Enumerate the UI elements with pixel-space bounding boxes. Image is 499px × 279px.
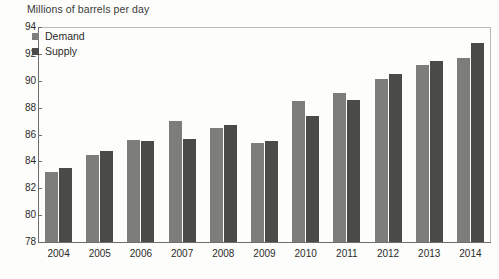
legend-swatch-supply: [32, 48, 39, 55]
bar-demand-2012: [375, 79, 388, 242]
legend-swatch-demand: [32, 33, 39, 40]
bar-supply-2005: [100, 151, 113, 242]
x-tick-label: 2009: [244, 248, 285, 260]
y-tick-label: 86: [14, 130, 36, 140]
chart-title: Millions of barrels per day: [27, 3, 149, 15]
bar-supply-2009: [265, 141, 278, 242]
bar-supply-2008: [224, 125, 237, 242]
bar-chart: Millions of barrels per day 788082848688…: [0, 0, 499, 279]
legend-item-supply: Supply: [32, 44, 122, 58]
y-tick-label: 88: [14, 103, 36, 113]
y-tick-label: 80: [14, 210, 36, 220]
x-tick-label: 2014: [450, 248, 491, 260]
bar-demand-2011: [333, 93, 346, 242]
y-tick-label: 82: [14, 183, 36, 193]
x-tick-label: 2011: [326, 248, 367, 260]
x-tick-label: 2010: [285, 248, 326, 260]
y-tick-label: 90: [14, 76, 36, 86]
legend-item-demand: Demand: [32, 29, 122, 43]
x-tick-label: 2008: [203, 248, 244, 260]
chart-legend: Demand Supply: [32, 29, 122, 59]
x-tick-label: 2012: [367, 248, 408, 260]
bar-demand-2014: [457, 58, 470, 242]
bar-demand-2009: [251, 143, 264, 242]
bar-supply-2014: [471, 43, 484, 242]
bar-supply-2010: [306, 116, 319, 242]
bar-supply-2012: [389, 74, 402, 242]
bar-supply-2011: [347, 100, 360, 242]
bar-demand-2008: [210, 128, 223, 242]
x-tick-label: 2004: [38, 248, 79, 260]
x-axis-line: [38, 242, 491, 243]
x-tick-label: 2005: [79, 248, 120, 260]
x-tick-label: 2007: [162, 248, 203, 260]
bar-demand-2006: [127, 140, 140, 242]
legend-label-demand: Demand: [45, 31, 85, 42]
bar-demand-2013: [416, 65, 429, 242]
x-tick-label: 2006: [120, 248, 161, 260]
bar-supply-2006: [141, 141, 154, 242]
legend-label-supply: Supply: [45, 46, 77, 57]
bar-demand-2005: [86, 155, 99, 242]
bar-demand-2007: [169, 121, 182, 242]
bar-supply-2007: [183, 139, 196, 242]
bar-demand-2010: [292, 101, 305, 242]
bar-demand-2004: [45, 172, 58, 242]
plot-area: [38, 27, 491, 242]
bar-supply-2013: [430, 61, 443, 242]
y-tick-label: 78: [14, 237, 36, 247]
x-tick-label: 2013: [409, 248, 450, 260]
bar-supply-2004: [59, 168, 72, 242]
y-tick-label: 84: [14, 156, 36, 166]
